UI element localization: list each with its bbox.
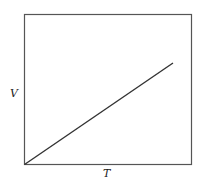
x-axis-label: T [103,167,112,180]
proportional-line [25,63,174,165]
v-t-graph: V T [0,0,203,181]
plot-frame [25,15,192,165]
y-axis-label: V [10,87,19,100]
